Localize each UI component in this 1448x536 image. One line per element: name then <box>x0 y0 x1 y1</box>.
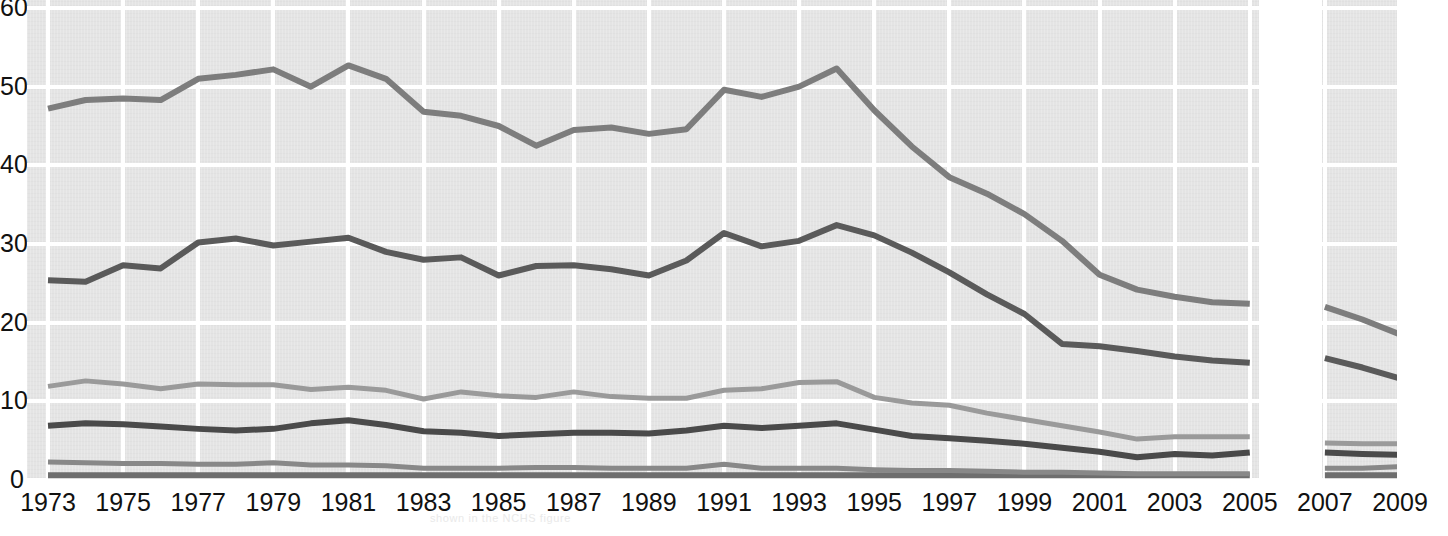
series-line-segment2-series-2 <box>1325 358 1397 378</box>
data-break-gap <box>1259 0 1322 482</box>
series-line-segment2-series-3 <box>1325 443 1397 444</box>
y-tick-label-40: 40 <box>0 152 24 177</box>
x-tick-label-1973: 1973 <box>20 487 76 517</box>
y-tick-label-30: 30 <box>0 231 24 256</box>
y-tick-label-60: 60 <box>0 0 24 20</box>
x-tick-label-1981: 1981 <box>321 487 377 517</box>
y-tick-label-50: 50 <box>0 74 24 99</box>
y-tick-label-20: 20 <box>0 310 24 335</box>
series-line-segment2-series-5 <box>1325 467 1397 469</box>
page-bleed-text: shown in the NCHS figure <box>430 512 990 524</box>
series-line-segment2-series-4 <box>1325 452 1397 454</box>
x-tick-label-2007: 2007 <box>1297 487 1353 517</box>
series-line-segment2-series-1 <box>1325 307 1397 335</box>
plot-area <box>27 0 1397 482</box>
y-tick-label-10: 10 <box>0 388 24 413</box>
x-tick-label-2003: 2003 <box>1147 487 1203 517</box>
x-tick-label-2005: 2005 <box>1222 487 1278 517</box>
series-line-series-5 <box>48 462 1250 474</box>
series-line-series-1 <box>48 65 1250 303</box>
series-layer <box>27 0 1397 482</box>
x-tick-label-1979: 1979 <box>246 487 302 517</box>
x-tick-label-2001: 2001 <box>1072 487 1128 517</box>
line-chart: 6050403020100 19731975197719791981198319… <box>0 0 1448 536</box>
x-tick-label-1975: 1975 <box>95 487 151 517</box>
x-tick-label-1977: 1977 <box>170 487 226 517</box>
x-tick-label-1999: 1999 <box>997 487 1053 517</box>
x-tick-label-2009: 2009 <box>1372 487 1428 517</box>
